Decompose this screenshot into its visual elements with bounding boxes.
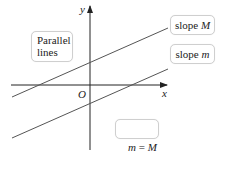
- equality-op: =: [136, 141, 148, 153]
- parallel-lines-callout: Parallel lines: [31, 31, 73, 62]
- parallel-callout-line1: Parallel: [37, 34, 72, 46]
- slope-M-var: M: [201, 19, 210, 31]
- parallel-lines-diagram: y x O Parallel lines slope M slope m m =…: [0, 0, 227, 169]
- slope-M-prefix: slope: [175, 19, 201, 31]
- slope-m-callout: slope m: [170, 44, 215, 64]
- equality-left: m: [128, 141, 136, 153]
- equality-right: M: [148, 141, 157, 153]
- equality-callout: m = M: [115, 119, 159, 139]
- slope-M-callout: slope M: [170, 15, 215, 35]
- parallel-callout-line2: lines: [37, 46, 72, 58]
- origin-label: O: [78, 88, 86, 100]
- slope-m-var: m: [202, 48, 210, 60]
- slope-m-prefix: slope: [176, 48, 202, 60]
- y-axis-label: y: [79, 3, 85, 15]
- x-axis-label: x: [161, 87, 167, 99]
